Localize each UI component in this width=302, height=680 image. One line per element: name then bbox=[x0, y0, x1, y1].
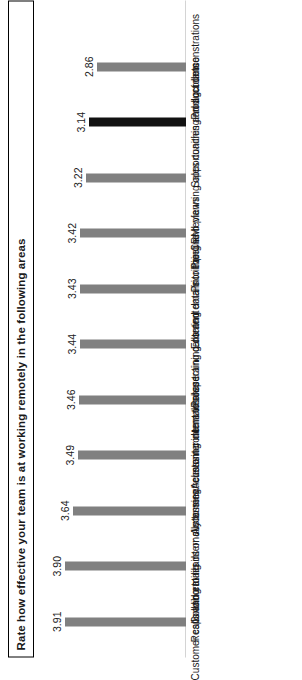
category-label-slot: Product demonstrations bbox=[186, 39, 298, 95]
bar-series: 3.91Customer calls and emails3.90Respond… bbox=[40, 8, 298, 649]
bar-column: 3.22Prioritizing and planning opportunit… bbox=[40, 150, 298, 206]
bar-column: 3.14Sales coaching and guidance bbox=[40, 94, 298, 150]
category-label-slot: Accessing relevant content to share bbox=[186, 427, 298, 483]
page-title: Rate how effective your team is at worki… bbox=[15, 238, 27, 656]
bar-column: 3.43Entering data into the CRM bbox=[40, 261, 298, 317]
bar-column: 3.90Responding to leads or customers bbox=[40, 538, 298, 594]
bar-column: 3.46Accessing internal sales training co… bbox=[40, 372, 298, 428]
bar bbox=[65, 561, 186, 570]
category-label-slot: Sales coaching and guidance bbox=[186, 94, 298, 150]
category-label-slot: Responding to leads or customers bbox=[186, 538, 298, 594]
category-label-slot: Entering data into the CRM bbox=[186, 261, 298, 317]
bar-value-label: 3.14 bbox=[76, 112, 87, 132]
bar-value-label: 3.64 bbox=[60, 500, 71, 520]
category-label: Product demonstrations bbox=[191, 13, 201, 119]
bar-highlighted bbox=[89, 117, 186, 126]
bar bbox=[80, 339, 186, 348]
bar bbox=[80, 228, 186, 237]
bar-value-label: 3.90 bbox=[52, 556, 63, 576]
bar-value-label: 3.44 bbox=[67, 334, 78, 354]
bar-column: 3.42Pipeline reviews bbox=[40, 205, 298, 261]
bar-value-label: 3.46 bbox=[66, 389, 77, 409]
bar bbox=[73, 506, 186, 515]
bar-column: 3.44Prospecting calls and emails bbox=[40, 316, 298, 372]
bar-value-label: 2.86 bbox=[84, 56, 95, 76]
bar bbox=[86, 173, 186, 182]
category-label-slot: Collaborating internally to meet custome… bbox=[186, 483, 298, 539]
bar-value-label: 3.49 bbox=[65, 445, 76, 465]
bar-column: 3.64Collaborating internally to meet cus… bbox=[40, 483, 298, 539]
bar bbox=[65, 617, 186, 626]
plot-area: 3.91Customer calls and emails3.90Respond… bbox=[40, 0, 298, 657]
category-label-slot: Prioritizing and planning opportunities … bbox=[186, 150, 298, 206]
bar-value-label: 3.22 bbox=[73, 167, 84, 187]
bar bbox=[97, 62, 186, 71]
bar-column: 3.91Customer calls and emails bbox=[40, 594, 298, 650]
bar-value-label: 3.42 bbox=[67, 223, 78, 243]
category-label-slot: Pipeline reviews bbox=[186, 205, 298, 261]
bar-column: 2.86Product demonstrations bbox=[40, 39, 298, 95]
category-label-slot: Prospecting calls and emails bbox=[186, 316, 298, 372]
bar bbox=[79, 395, 186, 404]
bar bbox=[80, 284, 186, 293]
bar-value-label: 3.91 bbox=[52, 611, 63, 631]
chart-title-box: Rate how effective your team is at worki… bbox=[8, 0, 34, 657]
bar bbox=[78, 450, 186, 459]
category-label-slot: Accessing internal sales training conten… bbox=[186, 372, 298, 428]
bar-column: 3.49Accessing relevant content to share bbox=[40, 427, 298, 483]
category-label-slot: Customer calls and emails bbox=[186, 594, 298, 650]
bar-value-label: 3.43 bbox=[67, 278, 78, 298]
